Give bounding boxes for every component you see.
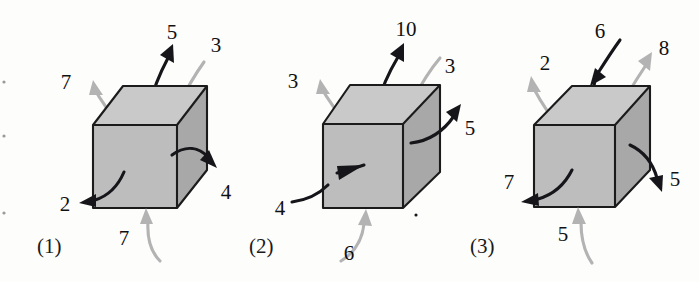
cube-1-arrow-top-in-gray-label: 3	[211, 33, 222, 57]
cube-1-arrow-front-out-black-label: 2	[60, 192, 71, 216]
cube-2-solid	[323, 85, 440, 208]
cube-3-caption: (3)	[470, 234, 495, 258]
cube-2-arrow-front-in-black-label: 4	[275, 196, 286, 220]
cube-1-arrow-top-out-black-label: 5	[167, 20, 178, 44]
flow-cubes-figure: 7 3 5 4	[0, 0, 699, 282]
cube-2-caption: (2)	[249, 234, 274, 258]
cube-3-group: 2 8 6 5	[470, 19, 680, 263]
cube-2-arrow-left-out-gray-label: 3	[288, 69, 299, 93]
cube-1-arrow-left-out-gray-label: 7	[61, 70, 72, 94]
cube-2-arrow-bottom-in-gray-label: 6	[344, 241, 355, 265]
page-speck	[2, 211, 5, 214]
cube-3-arrow-top-out-gray-label: 8	[659, 36, 670, 60]
cube-1-caption: (1)	[37, 234, 62, 258]
cube-1-arrow-bottom-in-gray: 7	[119, 208, 160, 261]
cube-3-arrow-bottom-in-gray: 5	[558, 207, 592, 263]
cube-3-arrow-bottom-in-gray-label: 5	[558, 222, 569, 246]
cube-1-group: 7 3 5 4	[37, 20, 232, 261]
cube-2-arrow-bottom-in-gray: 6	[341, 209, 372, 265]
cube-3-arrow-side-out-black-label: 5	[670, 167, 681, 191]
cube-2-group: 3 3 10	[249, 17, 475, 265]
page-speck	[2, 134, 5, 137]
page-speck	[2, 80, 5, 83]
cube-1-arrow-bottom-in-gray-label: 7	[119, 226, 130, 250]
cube-3-arrow-top-in-black-label: 6	[595, 19, 606, 43]
cube-2-arrow-side-out-black-label: 5	[465, 116, 476, 140]
cube-2-arrow-top-in-gray-label: 3	[445, 54, 456, 78]
cube-3-arrow-front-out-black-label: 7	[504, 170, 515, 194]
cube-2-arrow-top-out-black-label: 10	[396, 17, 417, 41]
cube-3-arrow-left-out-gray-label: 2	[540, 51, 551, 75]
cube-1-arrow-side-out-black-label: 4	[221, 180, 232, 204]
